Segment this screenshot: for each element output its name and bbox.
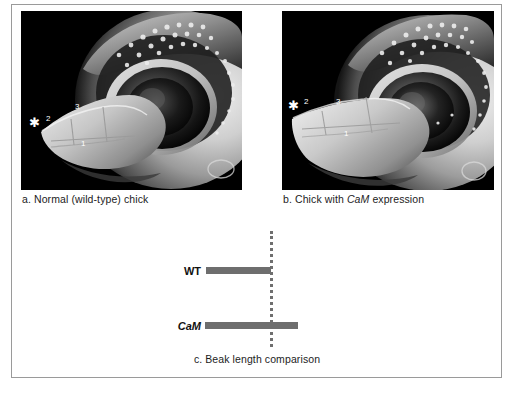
micrograph-image-a: ✱ 2 3 1 bbox=[21, 11, 242, 190]
micrograph-panel-row: ✱ 2 3 1 a. Normal (wild-type) chick bbox=[21, 11, 493, 211]
panel-b-caption: b. Chick with CaM expression bbox=[283, 193, 424, 205]
bar-wt bbox=[206, 267, 271, 274]
chart-caption: c. Beak length comparison bbox=[21, 353, 493, 365]
bar-label-cam: CaM bbox=[141, 318, 201, 334]
bar-cam bbox=[205, 322, 298, 329]
panel-b-caption-label: b. bbox=[283, 193, 292, 205]
panel-b-caption-gene: CaM bbox=[347, 193, 369, 205]
micrograph-image-b: ✱ 2 3 1 bbox=[282, 11, 494, 190]
chart-row-wt: WT bbox=[21, 263, 493, 279]
panel-b-caption-pre: Chick with bbox=[295, 193, 347, 205]
beak-length-chart: WT CaM c. Beak length comparison bbox=[21, 227, 493, 373]
panel-a-wild-type: ✱ 2 3 1 a. Normal (wild-type) chick bbox=[21, 11, 242, 190]
sem-rendering-b bbox=[282, 11, 494, 190]
sem-svg-b bbox=[282, 11, 494, 190]
panel-b-caption-post: expression bbox=[369, 193, 424, 205]
figure-root: ✱ 2 3 1 a. Normal (wild-type) chick bbox=[0, 0, 514, 395]
sem-svg-a bbox=[21, 11, 242, 190]
chart-row-cam: CaM bbox=[21, 318, 493, 334]
bar-label-wt: WT bbox=[141, 263, 201, 279]
panel-b-cam: ✱ 2 3 1 b. Chick with CaM expression bbox=[282, 11, 494, 190]
sem-rendering-a bbox=[21, 11, 242, 190]
panel-a-caption: a. Normal (wild-type) chick bbox=[22, 193, 148, 205]
chart-plot-area: WT CaM bbox=[21, 227, 493, 349]
figure-frame: ✱ 2 3 1 a. Normal (wild-type) chick bbox=[11, 4, 502, 378]
